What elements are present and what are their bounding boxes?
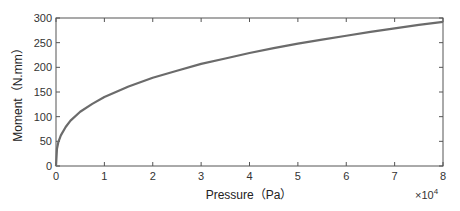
x-tick-label: 6 (343, 170, 349, 182)
x-tick-label: 8 (440, 170, 446, 182)
moment-pressure-chart: 050100150200250300 012345678 Pressure（Pa… (0, 0, 460, 211)
y-tick-label: 100 (34, 111, 52, 123)
x-tick-label: 3 (198, 170, 204, 182)
x-tick-label: 2 (150, 170, 156, 182)
x-tick-label: 1 (101, 170, 107, 182)
x-tick-label: 0 (53, 170, 59, 182)
y-tick-label: 250 (34, 37, 52, 49)
y-axis-label: Moment（N.mm） (11, 42, 25, 141)
x-tick-label: 4 (246, 170, 252, 182)
x-axis-multiplier: ×104 (415, 187, 439, 201)
y-tick-label: 200 (34, 61, 52, 73)
y-tick-label: 50 (40, 135, 52, 147)
y-tick-label: 0 (46, 160, 52, 172)
y-tick-label: 150 (34, 86, 52, 98)
x-axis-label: Pressure（Pa） (206, 188, 293, 202)
y-tick-label: 300 (34, 12, 52, 24)
x-tick-label: 5 (295, 170, 301, 182)
x-tick-label: 7 (392, 170, 398, 182)
